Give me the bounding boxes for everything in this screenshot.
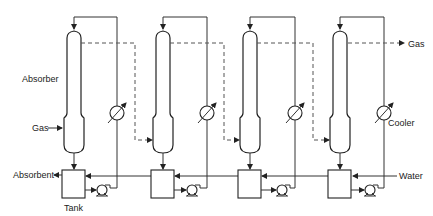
tank [238, 170, 261, 198]
absorber-label: Absorber [22, 74, 59, 84]
pump-icon [187, 185, 197, 195]
absorption-train-diagram: Absorber Gas Absorbent Tank Gas Cooler W… [0, 0, 433, 216]
absorbent-label: Absorbent [13, 170, 55, 180]
gas-outlet-label: Gas [408, 39, 425, 49]
gas-inlet-label: Gas [32, 123, 49, 133]
pump-icon [277, 185, 287, 195]
absorber-column [64, 31, 84, 153]
gas-transfer-line [170, 43, 239, 140]
absorber-column [240, 31, 260, 153]
tank [62, 170, 85, 198]
water-label: Water [399, 171, 423, 181]
tank-label: Tank [64, 203, 84, 213]
absorber-column [330, 31, 350, 153]
absorber-column [153, 31, 173, 153]
pump-icon [97, 185, 107, 195]
pump-icon [365, 185, 375, 195]
tank [328, 170, 351, 198]
tank [151, 170, 174, 198]
gas-transfer-line [257, 43, 329, 140]
cooler-label: Cooler [388, 118, 415, 128]
